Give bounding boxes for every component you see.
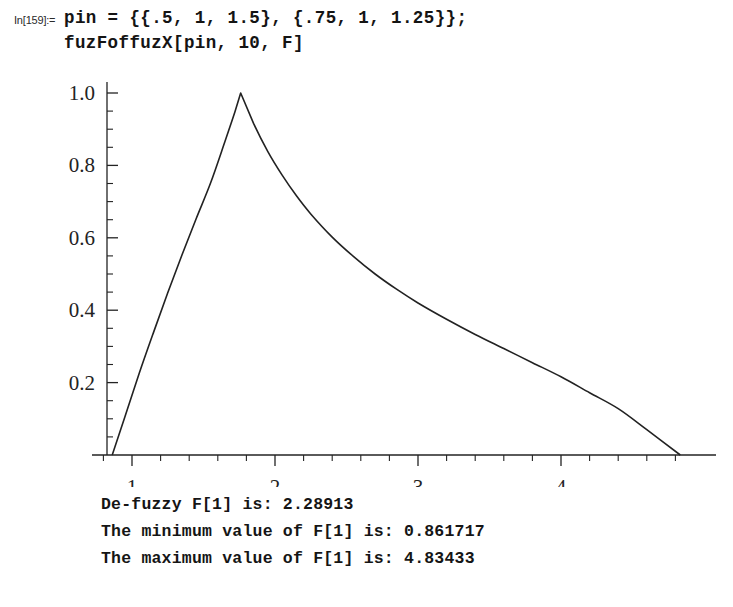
x-tick-label: 2 xyxy=(270,475,281,487)
input-prompt-label: In[159]:= xyxy=(14,14,55,26)
y-tick-label: 0.4 xyxy=(69,298,96,322)
x-tick-label: 1 xyxy=(127,475,138,487)
code-line-1[interactable]: pin = {{.5, 1, 1.5}, {.75, 1, 1.25}}; xyxy=(64,8,467,28)
x-axis-major-ticks xyxy=(132,455,561,466)
plot-output-cell[interactable]: 0.20.40.60.81.0 1234 xyxy=(0,62,733,487)
y-tick-label: 0.2 xyxy=(69,371,95,395)
y-tick-label: 1.0 xyxy=(69,81,95,105)
output-line-maximum: The maximum value of F[1] is: 4.83433 xyxy=(101,549,475,568)
x-axis: 1234 xyxy=(92,455,716,487)
y-axis-major-ticks xyxy=(107,93,118,383)
output-line-defuzzy: De-fuzzy F[1] is: 2.28913 xyxy=(101,495,354,514)
y-tick-label: 0.8 xyxy=(69,153,95,177)
text-output-cell[interactable]: De-fuzzy F[1] is: 2.28913 The minimum va… xyxy=(0,487,733,607)
code-line-2[interactable]: fuzFoffuzX[pin, 10, F] xyxy=(64,33,304,53)
output-line-minimum: The minimum value of F[1] is: 0.861717 xyxy=(101,522,485,541)
x-axis-minor-ticks xyxy=(103,455,675,461)
x-tick-label: 4 xyxy=(556,475,567,487)
y-axis: 0.20.40.60.81.0 xyxy=(69,81,118,455)
data-series-curve xyxy=(112,93,680,455)
y-axis-tick-labels: 0.20.40.60.81.0 xyxy=(69,81,96,395)
input-cell[interactable]: In[159]:= pin = {{.5, 1, 1.5}, {.75, 1, … xyxy=(0,0,733,62)
fuzzy-membership-plot: 0.20.40.60.81.0 1234 xyxy=(0,62,733,487)
y-axis-minor-ticks xyxy=(107,111,113,437)
y-tick-label: 0.6 xyxy=(69,226,95,250)
x-axis-tick-labels: 1234 xyxy=(127,475,567,487)
x-tick-label: 3 xyxy=(413,475,424,487)
